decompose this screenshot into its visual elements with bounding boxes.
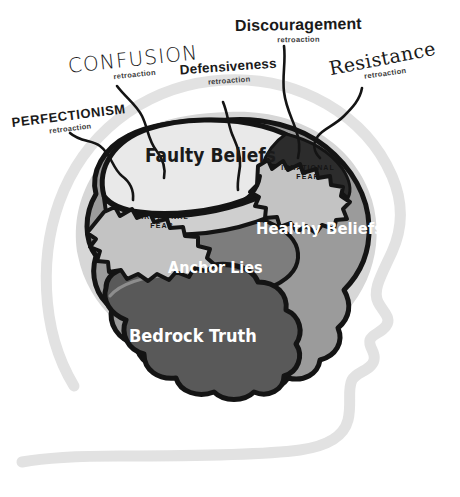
callout-discouragement: Discouragement retroaction xyxy=(235,15,362,45)
callout-discouragement-label: Discouragement xyxy=(235,15,362,35)
diagram-canvas: PERFECTIONISM retroaction CONFUSION retr… xyxy=(0,0,460,497)
